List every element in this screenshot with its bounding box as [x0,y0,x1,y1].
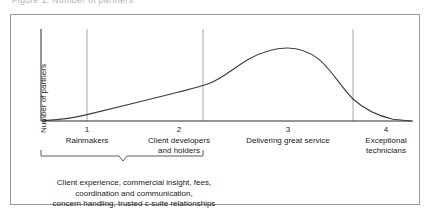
chart-frame: Number of partners 1 Rainmakers 2 Client… [10,14,420,205]
x-tick-number-2: 2 [133,125,225,135]
y-axis-title: Number of partners [39,64,48,133]
x-tick-number-4: 4 [355,125,417,135]
skills-bracket-note-line-3: concern handling, trusted c-suite relati… [29,199,239,210]
x-tick-group-3: 3 Delivering great service [226,125,350,146]
skills-bracket-note-line-1: Client experience, commercial insight, f… [29,178,239,189]
x-tick-group-4: 4 Exceptionaltechnicians [355,125,417,156]
x-tick-label-delivering-great-service: Delivering great service [226,136,350,146]
x-tick-number-3: 3 [226,125,350,135]
x-tick-label-exceptional-technicians: Exceptionaltechnicians [355,136,417,156]
x-tick-group-1: 1 Rainmakers [49,125,125,146]
skills-bracket-note: Client experience, commercial insight, f… [29,178,239,210]
x-tick-label-rainmakers: Rainmakers [49,136,125,146]
distribution-curve [44,48,411,121]
x-tick-group-2: 2 Client developersand holders [133,125,225,156]
clipped-top-caption: Figure 1: Number of partners [12,0,133,5]
figure-root: Figure 1: Number of partners Number of p… [0,0,433,217]
chart-plot-area [11,15,419,204]
skills-bracket-note-line-2: coordination and communication, [29,189,239,200]
x-tick-number-1: 1 [49,125,125,135]
x-tick-label-client-developers: Client developersand holders [133,136,225,156]
segment-divider-lines [87,29,353,121]
